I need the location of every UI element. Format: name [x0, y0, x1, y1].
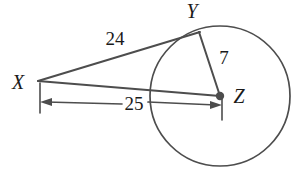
center-point-z-dot — [216, 92, 224, 100]
point-label-z: Z — [233, 85, 245, 107]
point-label-y: Y — [186, 0, 199, 22]
measure-label-tangent-24: 24 — [106, 28, 126, 49]
measure-label-distance-25: 25 — [125, 93, 144, 114]
geometry-canvas: X Y Z 24 7 25 — [0, 0, 305, 180]
dimension-arrow-left — [40, 98, 52, 106]
dimension-arrow-right — [210, 101, 222, 109]
dimension-line-right — [148, 102, 216, 105]
segment-zy-radius — [199, 32, 220, 96]
measure-label-radius-7: 7 — [219, 47, 229, 68]
point-label-x: X — [11, 71, 25, 93]
dimension-line-left — [46, 102, 122, 104]
geometry-diagram: X Y Z 24 7 25 — [0, 0, 305, 180]
